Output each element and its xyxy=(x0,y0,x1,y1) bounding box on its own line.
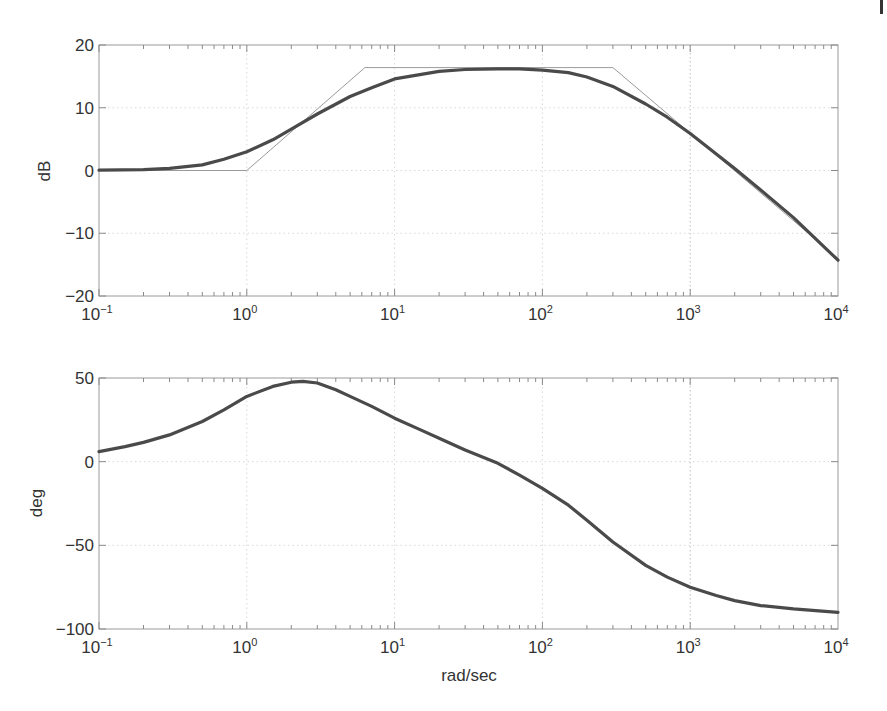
magnitude-y-tick-labels: 20100−10−20 xyxy=(65,36,94,306)
x-tick-label: 104 xyxy=(823,636,848,657)
x-tick-label: 102 xyxy=(528,303,553,324)
y-tick-label: −20 xyxy=(65,287,94,306)
y-tick-label: 0 xyxy=(85,162,94,181)
y-tick-label: 10 xyxy=(75,99,94,118)
x-tick-label: 101 xyxy=(380,303,405,324)
phase-y-tick-labels: 500−50−100 xyxy=(56,369,94,639)
x-tick-label: 100 xyxy=(232,303,257,324)
y-tick-label: −100 xyxy=(56,620,94,639)
y-tick-label: 20 xyxy=(75,36,94,55)
magnitude-plot: 20100−10−20 10−1100101102103104 dB xyxy=(35,36,849,324)
x-tick-label: 101 xyxy=(380,636,405,657)
y-tick-label: −10 xyxy=(65,224,94,243)
x-tick-label: 10−1 xyxy=(81,636,112,657)
x-tick-label: 102 xyxy=(528,636,553,657)
phase-y-axis-label: deg xyxy=(27,489,46,517)
phase-plot: 500−50−100 10−1100101102103104 deg rad/s… xyxy=(27,369,849,685)
y-tick-label: 0 xyxy=(85,453,94,472)
magnitude-y-axis-label: dB xyxy=(35,161,54,182)
x-tick-label: 10−1 xyxy=(81,303,112,324)
phase-curve xyxy=(99,381,838,612)
magnitude-x-tick-labels: 10−1100101102103104 xyxy=(81,303,848,324)
x-tick-label: 103 xyxy=(676,303,701,324)
y-tick-label: 50 xyxy=(75,369,94,388)
bode-plot: 20100−10−20 10−1100101102103104 dB 500−5… xyxy=(0,0,887,711)
phase-x-tick-labels: 10−1100101102103104 xyxy=(81,636,848,657)
magnitude-curve xyxy=(99,69,838,260)
x-tick-label: 104 xyxy=(823,303,848,324)
x-axis-label: rad/sec xyxy=(441,666,497,685)
x-tick-label: 103 xyxy=(676,636,701,657)
y-tick-label: −50 xyxy=(65,536,94,555)
x-tick-label: 100 xyxy=(232,636,257,657)
